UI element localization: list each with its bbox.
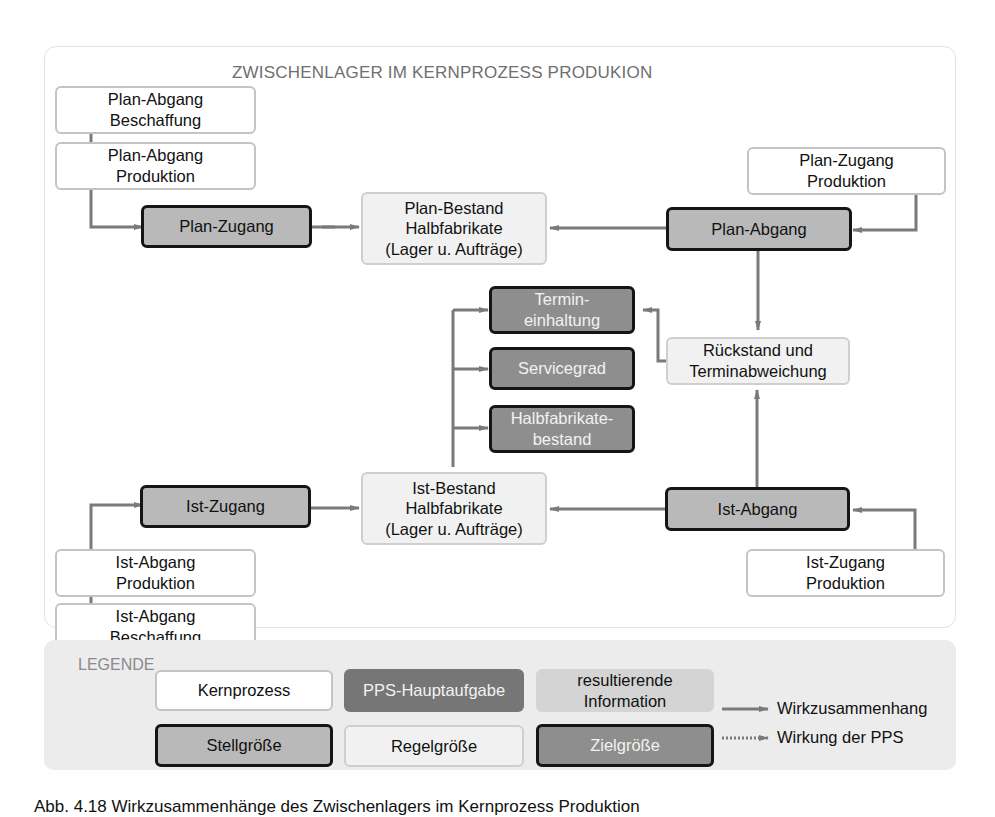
- legend-wirkung-pps: Wirkung der PPS: [777, 728, 904, 747]
- legend-wirkzusammenhang: Wirkzusammenhang: [777, 699, 927, 718]
- figure-caption: Abb. 4.18 Wirkzusammenhänge des Zwischen…: [34, 797, 640, 817]
